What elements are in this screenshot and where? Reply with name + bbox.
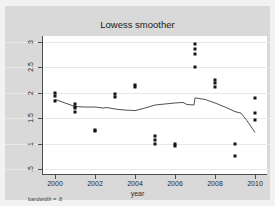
- x-tick: [255, 175, 256, 179]
- data-point: [254, 112, 257, 115]
- x-tick: [175, 175, 176, 179]
- data-point: [154, 134, 157, 137]
- y-tick: [38, 93, 42, 94]
- gridline: [5, 42, 270, 43]
- data-point: [194, 53, 197, 56]
- data-point: [54, 95, 57, 98]
- data-point: [194, 42, 197, 45]
- y-tick-label: .5: [27, 166, 34, 172]
- x-tick-label: 2010: [247, 180, 263, 187]
- data-point: [134, 86, 137, 89]
- gridline: [5, 67, 270, 68]
- data-point: [54, 99, 57, 102]
- screenshot-canvas: Lowess smoother .511.522.53 200020022004…: [0, 0, 275, 206]
- data-point: [254, 97, 257, 100]
- data-point: [234, 142, 237, 145]
- data-point: [154, 143, 157, 146]
- bandwidth-note: bandwidth = .8: [28, 196, 62, 202]
- y-tick: [38, 169, 42, 170]
- data-point: [154, 139, 157, 142]
- x-tick-label: 2006: [167, 180, 183, 187]
- plot-region: .511.522.53 200020022004200620082010: [5, 6, 270, 200]
- y-tick: [38, 67, 42, 68]
- gridline: [5, 144, 270, 145]
- y-axis-line: [42, 36, 43, 175]
- x-tick: [215, 175, 216, 179]
- data-point: [174, 144, 177, 147]
- y-tick-label: 3: [27, 40, 34, 44]
- data-point: [74, 111, 77, 114]
- y-tick-label: 2: [27, 91, 34, 95]
- gridline: [5, 93, 270, 94]
- x-tick: [55, 175, 56, 179]
- y-tick: [38, 144, 42, 145]
- data-point: [94, 130, 97, 133]
- x-tick-label: 2008: [207, 180, 223, 187]
- data-point: [194, 47, 197, 50]
- graph-region: Lowess smoother .511.522.53 200020022004…: [5, 6, 270, 200]
- x-tick: [135, 175, 136, 179]
- data-point: [74, 107, 77, 110]
- data-point: [114, 92, 117, 95]
- x-axis-line: [42, 174, 267, 175]
- y-tick: [38, 118, 42, 119]
- data-point: [194, 66, 197, 69]
- data-point: [114, 96, 117, 99]
- gridline: [5, 169, 270, 170]
- x-tick-label: 2000: [47, 180, 63, 187]
- y-tick: [38, 42, 42, 43]
- data-point: [54, 91, 57, 94]
- x-tick: [95, 175, 96, 179]
- data-point: [214, 81, 217, 84]
- y-tick-label: 1: [27, 142, 34, 146]
- y-tick-label: 1.5: [27, 113, 34, 123]
- data-point: [214, 86, 217, 89]
- x-tick-label: 2002: [87, 180, 103, 187]
- x-tick-label: 2004: [127, 180, 143, 187]
- data-point: [234, 154, 237, 157]
- data-point: [254, 118, 257, 121]
- gridline: [5, 118, 270, 119]
- y-tick-label: 2.5: [27, 63, 34, 73]
